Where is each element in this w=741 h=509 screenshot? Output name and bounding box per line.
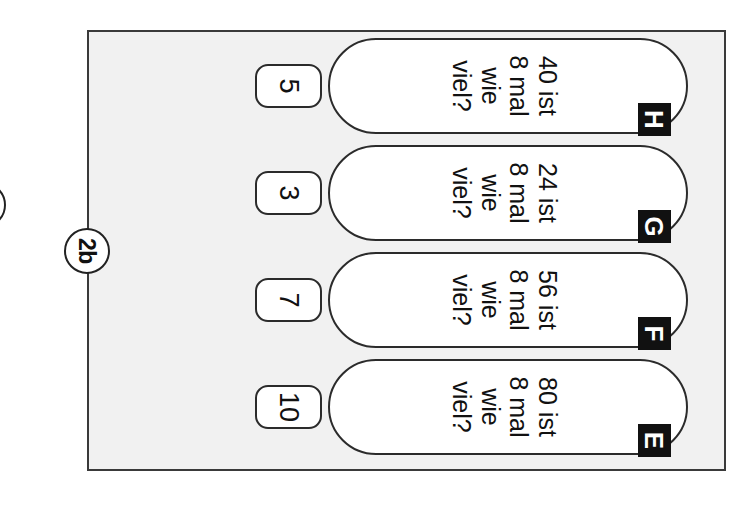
task-card-row: 40 ist 8 mal wie viel? H 5 24 ist 8 mal … (89, 32, 724, 469)
task-card[interactable]: 24 ist 8 mal wie viel? G (328, 145, 688, 241)
exercise-number-bubble-partial (0, 182, 6, 228)
task-card[interactable]: 80 ist 8 mal wie viel? E (328, 359, 688, 455)
worksheet-panel: 40 ist 8 mal wie viel? H 5 24 ist 8 mal … (87, 30, 726, 471)
task-unit: 80 ist 8 mal wie viel? E 10 (328, 359, 688, 455)
task-letter-badge: G (638, 210, 671, 243)
task-question-text: 24 ist 8 mal wie viel? (448, 147, 562, 239)
task-card[interactable]: 56 ist 8 mal wie viel? F (328, 252, 688, 348)
task-unit: 56 ist 8 mal wie viel? F 7 (328, 252, 688, 348)
answer-box[interactable]: 10 (255, 385, 322, 429)
task-letter-badge: H (638, 103, 671, 136)
rotated-content-stage: 40 ist 8 mal wie viel? H 5 24 ist 8 mal … (89, 32, 724, 469)
exercise-number-bubble: 2b (64, 228, 110, 274)
task-letter-badge: F (638, 317, 671, 350)
task-letter-badge: E (638, 424, 671, 457)
answer-box[interactable]: 3 (255, 171, 322, 215)
answer-box[interactable]: 7 (255, 278, 322, 322)
task-question-text: 80 ist 8 mal wie viel? (448, 361, 562, 453)
task-question-text: 40 ist 8 mal wie viel? (448, 40, 562, 132)
task-unit: 40 ist 8 mal wie viel? H 5 (328, 38, 688, 134)
task-unit: 24 ist 8 mal wie viel? G 3 (328, 145, 688, 241)
task-question-text: 56 ist 8 mal wie viel? (448, 254, 562, 346)
task-card[interactable]: 40 ist 8 mal wie viel? H (328, 38, 688, 134)
answer-box[interactable]: 5 (255, 64, 322, 108)
